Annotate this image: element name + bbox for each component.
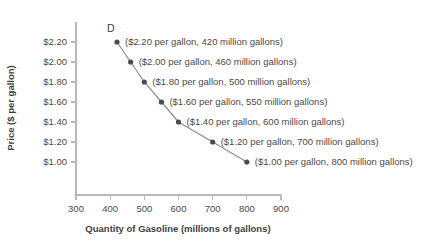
y-tick-label: $1.00 xyxy=(43,156,67,167)
x-tick-label: 800 xyxy=(239,203,255,214)
x-tick-label: 400 xyxy=(102,203,118,214)
x-axis-title: Quantity of Gasoline (millions of gallon… xyxy=(85,223,270,234)
x-tick-label: 700 xyxy=(205,203,221,214)
y-tick-group: $1.00$1.20$1.40$1.60$1.80$2.00$2.20 xyxy=(43,36,76,167)
y-tick-label: $2.00 xyxy=(43,56,67,67)
x-tick-label: 600 xyxy=(171,203,187,214)
data-point xyxy=(210,139,215,144)
x-tick-label: 300 xyxy=(68,203,84,214)
x-tick-group: 300400500600700800900 xyxy=(68,195,289,214)
x-tick-label: 900 xyxy=(273,203,289,214)
data-point xyxy=(142,79,147,84)
data-point xyxy=(128,59,133,64)
data-point-label: ($1.00 per gallon, 800 million gallons) xyxy=(255,156,413,167)
y-axis-title: Price ($ per gallon) xyxy=(5,65,16,151)
data-point-label: ($2.20 per gallon, 420 million gallons) xyxy=(125,36,283,47)
chart-svg: $1.00$1.20$1.40$1.60$1.80$2.00$2.20 Pric… xyxy=(0,0,440,251)
data-point xyxy=(176,119,181,124)
demand-curve-chart: $1.00$1.20$1.40$1.60$1.80$2.00$2.20 Pric… xyxy=(0,0,440,251)
y-tick-label: $2.20 xyxy=(43,36,67,47)
data-point-label: ($1.80 per gallon, 500 million gallons) xyxy=(152,76,310,87)
data-point xyxy=(114,39,119,44)
data-point xyxy=(244,159,249,164)
data-point xyxy=(159,99,164,104)
data-point-label: ($2.00 per gallon, 460 million gallons) xyxy=(139,56,297,67)
x-axis: 300400500600700800900 Quantity of Gasoli… xyxy=(68,195,289,234)
y-axis: $1.00$1.20$1.40$1.60$1.80$2.00$2.20 Pric… xyxy=(5,22,76,195)
x-tick-label: 500 xyxy=(136,203,152,214)
data-point-label: ($1.60 per gallon, 550 million gallons) xyxy=(169,96,327,107)
y-tick-label: $1.40 xyxy=(43,116,67,127)
data-point-label: ($1.40 per gallon, 600 million gallons) xyxy=(187,116,345,127)
y-tick-label: $1.20 xyxy=(43,136,67,147)
series-D: ($2.20 per gallon, 420 million gallons)(… xyxy=(107,22,413,167)
curve-name-label: D xyxy=(107,22,115,34)
data-point-label: ($1.20 per gallon, 700 million gallons) xyxy=(221,136,379,147)
y-tick-label: $1.80 xyxy=(43,76,67,87)
series-layer: ($2.20 per gallon, 420 million gallons)(… xyxy=(107,22,413,167)
y-tick-label: $1.60 xyxy=(43,96,67,107)
